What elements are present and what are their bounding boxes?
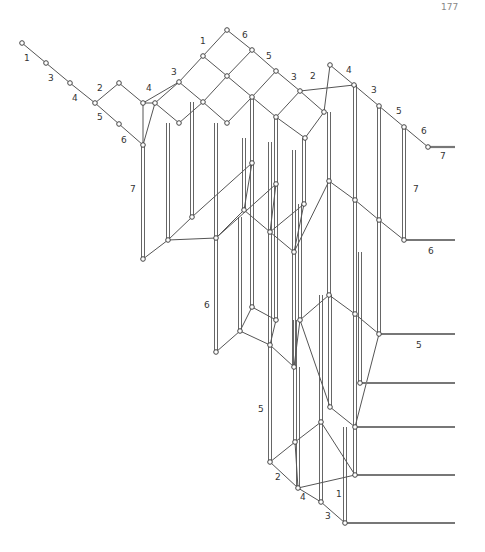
node-circle-icon (250, 305, 255, 310)
node-circle-icon (166, 238, 171, 243)
edge-label: 5 (416, 340, 422, 350)
edge-label: 3 (325, 511, 331, 521)
lattice-edge (270, 184, 276, 232)
node-circle-icon (250, 48, 255, 53)
node-circle-icon (327, 179, 332, 184)
edge-label: 5 (266, 51, 272, 61)
node-circle-icon (68, 81, 73, 86)
node-circle-icon (93, 101, 98, 106)
node-circle-icon (402, 238, 407, 243)
edge-label: 7 (130, 184, 136, 194)
lattice-edge (330, 407, 355, 427)
node-circle-icon (250, 161, 255, 166)
node-circle-icon (44, 61, 49, 66)
edge-label: 3 (171, 67, 177, 77)
node-circle-icon (268, 230, 273, 235)
lattice-edge (305, 112, 324, 138)
node-circle-icon (319, 500, 324, 505)
lattice-edge (300, 91, 324, 112)
node-circle-icon (353, 312, 358, 317)
node-circle-icon (117, 122, 122, 127)
edge-label: 2 (310, 71, 316, 81)
node-circle-icon (377, 104, 382, 109)
lattice-edge (300, 320, 330, 407)
node-circle-icon (343, 521, 348, 526)
lattice-edge (321, 422, 355, 475)
node-circle-icon (214, 350, 219, 355)
node-circle-icon (274, 115, 279, 120)
lattice-edge (143, 240, 168, 259)
edge-label: 7 (413, 184, 419, 194)
edge-labels: 1345246316532435677766552413 (24, 30, 446, 521)
lattice-edge (227, 97, 252, 123)
node-circle-icon (353, 425, 358, 430)
node-circle-icon (214, 236, 219, 241)
node-circle-icon (328, 63, 333, 68)
lattice-edge (216, 331, 240, 352)
lattice-edge (379, 220, 404, 240)
lattice-edge (143, 103, 155, 145)
lattice-edge (270, 345, 294, 367)
lattice-edge (276, 91, 300, 117)
lattice-edge (155, 82, 179, 103)
node-circle-icon (274, 69, 279, 74)
lattice-edge (203, 30, 227, 56)
lattice-edge (252, 97, 276, 117)
edge-label: 3 (371, 85, 377, 95)
node-circle-icon (293, 440, 298, 445)
node-circle-icon (225, 74, 230, 79)
edge-label: 6 (242, 30, 248, 40)
node-circle-icon (153, 101, 158, 106)
node-circle-icon (20, 41, 25, 46)
node-circle-icon (303, 136, 308, 141)
lattice-edge (203, 56, 227, 76)
node-circle-icon (426, 145, 431, 150)
lattice-edge (119, 83, 143, 103)
edge-label: 6 (204, 300, 210, 310)
node-circle-icon (296, 486, 301, 491)
node-circle-icon (274, 182, 279, 187)
edge-label: 3 (48, 73, 54, 83)
edge-label: 4 (300, 492, 306, 502)
node-circle-icon (250, 95, 255, 100)
node-circle-icon (141, 101, 146, 106)
lattice-edge (270, 442, 295, 462)
lattice-edge (179, 56, 203, 82)
edge-label: 1 (200, 36, 206, 46)
edge-label: 6 (121, 135, 127, 145)
node-circle-icon (242, 208, 247, 213)
node-circle-icon (268, 460, 273, 465)
lattice-edge (179, 82, 203, 102)
edge-label: 1 (24, 53, 30, 63)
node-circle-icon (352, 83, 357, 88)
edge-label: 5 (258, 404, 264, 414)
edge-label: 4 (346, 65, 352, 75)
edge-label: 6 (428, 246, 434, 256)
edge-label: 7 (440, 151, 446, 161)
vertical-edges (142, 85, 406, 523)
node-circle-icon (377, 332, 382, 337)
node-circle-icon (377, 218, 382, 223)
node-circle-icon (322, 110, 327, 115)
lattice-nodes (20, 28, 431, 526)
lattice-edge (252, 307, 276, 320)
lattice-edge (270, 320, 276, 345)
lattice-edge (203, 76, 227, 102)
lattice-edge (252, 50, 276, 71)
lattice-edge (294, 181, 329, 252)
diagonal-edges (22, 30, 428, 523)
node-circle-icon (298, 89, 303, 94)
node-circle-icon (225, 28, 230, 33)
node-circle-icon (298, 318, 303, 323)
node-circle-icon (238, 329, 243, 334)
node-circle-icon (117, 81, 122, 86)
edge-label: 3 (291, 72, 297, 82)
node-circle-icon (177, 80, 182, 85)
node-circle-icon (141, 143, 146, 148)
edge-label: 5 (97, 112, 103, 122)
node-circle-icon (190, 215, 195, 220)
lattice-edge (216, 210, 244, 238)
lattice-edge (227, 50, 252, 76)
node-circle-icon (302, 202, 307, 207)
node-circle-icon (201, 54, 206, 59)
